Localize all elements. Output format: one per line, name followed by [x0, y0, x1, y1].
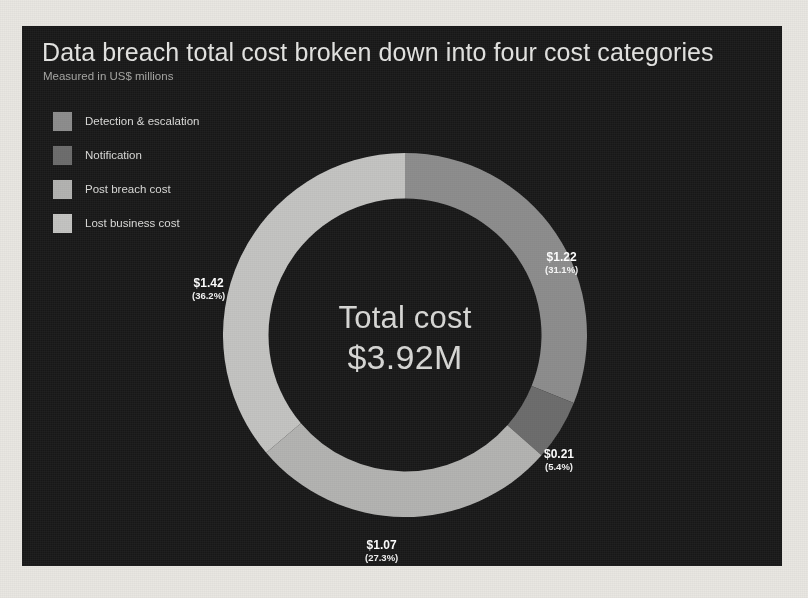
page-root: Data breach total cost broken down into …: [0, 0, 808, 598]
slice-percent-detection: (31.1%): [545, 264, 578, 275]
slice-percent-lost-business: (36.2%): [192, 290, 225, 301]
donut-chart: $1.22 (31.1%) $0.21 (5.4%) $1.07 (27.3%)…: [22, 26, 782, 566]
donut-center-value: $3.92M: [265, 337, 545, 378]
slice-label-lost-business: $1.42 (36.2%): [192, 276, 225, 301]
slice-percent-post-breach: (27.3%): [365, 552, 398, 563]
slice-label-notification: $0.21 (5.4%): [544, 447, 574, 472]
slice-label-detection: $1.22 (31.1%): [545, 250, 578, 275]
slice-value-notification: $0.21: [544, 447, 574, 461]
slice-label-post-breach: $1.07 (27.3%): [365, 538, 398, 563]
slice-value-detection: $1.22: [545, 250, 578, 264]
slice-value-post-breach: $1.07: [365, 538, 398, 552]
donut-center-title: Total cost: [265, 300, 545, 336]
slice-percent-notification: (5.4%): [544, 461, 574, 472]
chart-panel: Data breach total cost broken down into …: [22, 26, 782, 566]
slice-value-lost-business: $1.42: [192, 276, 225, 290]
donut-center-text: Total cost $3.92M: [265, 300, 545, 377]
donut-slice-post-breach-cost[interactable]: [266, 423, 541, 517]
